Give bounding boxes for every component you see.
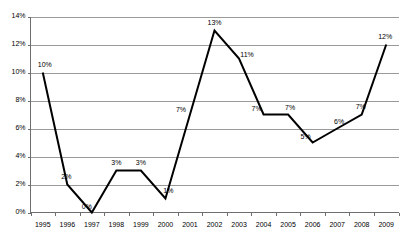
data-label-1996: 2% [61, 173, 71, 180]
data-label-2006: 5% [301, 133, 311, 140]
y-tick-label-2: 2% [15, 180, 25, 187]
x-axis [31, 213, 400, 216]
data-label-2002: 13% [207, 19, 221, 26]
x-tick-label-2004: 2004 [256, 221, 272, 228]
gridlines [31, 18, 399, 186]
data-label-2009: 12% [378, 33, 392, 40]
y-tick-label-12: 12% [11, 40, 25, 47]
x-tick-label-2002: 2002 [207, 221, 223, 228]
line-chart: 0%2%4%6%8%10%12%14% 19951996199719981999… [0, 0, 408, 249]
x-tick-label-2001: 2001 [182, 221, 198, 228]
x-tick-label-2006: 2006 [305, 221, 321, 228]
data-label-1995: 10% [38, 61, 52, 68]
data-point-labels: 10%2%0%3%3%1%7%13%11%7%7%5%6%7%12% [38, 19, 392, 210]
y-tick-label-10: 10% [11, 68, 25, 75]
x-tick-label-1997: 1997 [84, 221, 100, 228]
x-tick-label-1996: 1996 [60, 221, 76, 228]
data-label-1999: 3% [136, 159, 146, 166]
x-tick-label-2009: 2009 [378, 221, 394, 228]
chart-plot-area: 0%2%4%6%8%10%12%14% 19951996199719981999… [0, 0, 408, 249]
y-tick-label-0: 0% [15, 208, 25, 215]
y-axis [28, 17, 31, 214]
data-label-2008: 7% [356, 103, 366, 110]
x-tick-label-1999: 1999 [133, 221, 149, 228]
data-label-2001: 7% [176, 106, 186, 113]
data-label-1997: 0% [82, 203, 92, 210]
data-label-2004: 7% [252, 105, 262, 112]
data-label-1998: 3% [111, 159, 121, 166]
y-axis-tick-labels: 0%2%4%6%8%10%12%14% [11, 12, 25, 215]
data-label-2003: 11% [240, 51, 254, 58]
x-tick-label-2008: 2008 [354, 221, 370, 228]
x-tick-label-2007: 2007 [329, 221, 345, 228]
data-label-2000: 1% [163, 187, 173, 194]
x-tick-label-1998: 1998 [109, 221, 125, 228]
y-tick-label-8: 8% [15, 96, 25, 103]
x-tick-label-1995: 1995 [35, 221, 51, 228]
data-label-2005: 7% [285, 104, 295, 111]
data-label-2007: 6% [334, 118, 344, 125]
x-tick-label-2003: 2003 [231, 221, 247, 228]
y-tick-label-14: 14% [11, 12, 25, 19]
x-tick-label-2000: 2000 [158, 221, 174, 228]
x-axis-tick-labels: 1995199619971998199920002001200220032004… [35, 221, 394, 228]
x-tick-label-2005: 2005 [280, 221, 296, 228]
y-tick-label-6: 6% [15, 124, 25, 131]
y-tick-label-4: 4% [15, 152, 25, 159]
